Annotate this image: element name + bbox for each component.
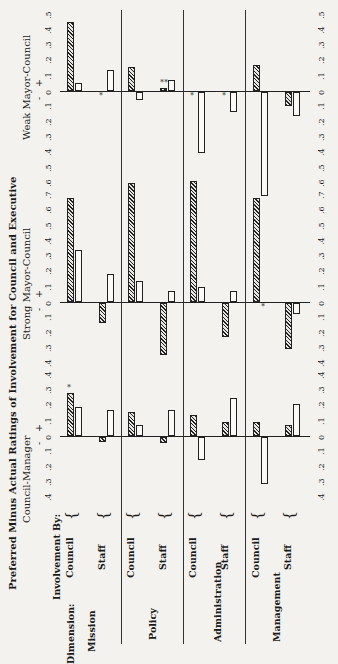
dimension-administration: Administration	[213, 562, 223, 642]
brace-icon: {	[282, 511, 296, 520]
axis-tick-label: .6	[318, 207, 326, 215]
axis-tick-label: .4	[45, 149, 53, 157]
axis-tick-label: .5	[45, 11, 53, 19]
hatched-bar	[128, 412, 135, 436]
open-bar	[168, 291, 175, 302]
brace-icon: {	[250, 511, 264, 520]
axis-tick-label: .2	[45, 402, 53, 410]
axis-tick-label: .2	[45, 329, 53, 337]
involvement-by-label: Involvement By:	[52, 514, 62, 600]
axis-tick-label: .2	[45, 463, 53, 471]
axis-tick-label: .6	[45, 207, 53, 215]
open-bar	[198, 287, 205, 302]
axis-tick-label: .4	[318, 237, 326, 245]
axis-tick-label: .4	[45, 360, 53, 368]
open-bar	[293, 303, 300, 314]
involvement-staff-label: Staff	[283, 545, 293, 570]
axis-tick-label: .7	[318, 191, 326, 199]
open-bar	[198, 437, 205, 460]
separator-admin-management	[245, 10, 246, 644]
axis-tick-label: .4	[318, 149, 326, 157]
plus-sign-wmc: +	[34, 79, 44, 87]
hatched-bar	[99, 437, 106, 442]
axis-tick-label: .7	[45, 191, 53, 199]
axis-tick-label: .1	[318, 314, 326, 322]
hatched-bar	[253, 422, 260, 436]
involvement-council-label: Council	[188, 537, 198, 578]
minus-sign-cm: -	[34, 442, 44, 445]
open-bar	[293, 404, 300, 436]
axis-tick-label: .1	[45, 103, 53, 111]
axis-tick-label: .6	[45, 179, 53, 187]
chart-title: Preferred Minus Actual Ratings of Involv…	[8, 177, 18, 590]
significance-marker: *	[261, 303, 265, 311]
axis-tick-label: .1	[45, 314, 53, 322]
axis-tick-label: .2	[45, 268, 53, 276]
axis-tick-label: .2	[318, 268, 326, 276]
axis-tick-label: .3	[318, 478, 326, 486]
panel-title-council-manager: Council-Manager	[22, 435, 32, 523]
open-bar	[107, 410, 114, 436]
axis-tick-label: .5	[318, 222, 326, 230]
axis-tick-label: .2	[318, 57, 326, 65]
significance-marker: *	[99, 92, 103, 100]
axis-tick-label: .3	[45, 41, 53, 49]
zero-line	[60, 302, 310, 303]
dimension-mission: Mission	[87, 610, 97, 652]
axis-tick-label: .3	[318, 252, 326, 260]
axis-tick-label: 0	[45, 435, 53, 440]
separator-policy-admin	[183, 10, 184, 644]
open-bar	[136, 92, 143, 100]
axis-tick-label: .3	[45, 344, 53, 352]
axis-tick-label: .1	[318, 417, 326, 425]
open-bar	[230, 92, 237, 112]
separator-mission-policy	[121, 10, 122, 644]
axis-tick-label: .6	[318, 179, 326, 187]
axis-tick-label: .2	[318, 463, 326, 471]
brace-icon: {	[187, 511, 201, 520]
open-bar	[136, 425, 143, 436]
hatched-bar	[128, 183, 135, 302]
axis-tick-label: .2	[318, 402, 326, 410]
plus-sign-smc: +	[34, 290, 44, 298]
hatched-bar	[253, 198, 260, 302]
open-bar	[293, 92, 300, 116]
hatched-bar	[128, 67, 135, 91]
axis-tick-label: .1	[45, 283, 53, 291]
hatched-bar	[285, 425, 292, 436]
brace-icon: {	[96, 511, 110, 520]
axis-tick-label: .4	[45, 371, 53, 379]
dimension-label: Dimension:	[66, 603, 76, 664]
hatched-bar	[285, 92, 292, 106]
axis-tick-label: .5	[318, 11, 326, 19]
axis-tick-label: .1	[45, 417, 53, 425]
panel-title-strong-mayor: Strong Mayor-Council	[22, 228, 32, 340]
hatched-bar	[67, 22, 74, 91]
hatched-bar	[222, 303, 229, 337]
axis-tick-label: .2	[45, 57, 53, 65]
panel-title-weak-mayor: Weak Mayor-Council	[22, 35, 32, 140]
axis-tick-label: .3	[45, 478, 53, 486]
open-bar	[75, 250, 82, 302]
hatched-bar	[160, 437, 167, 443]
significance-marker: *	[67, 384, 71, 392]
axis-tick-label: .5	[45, 164, 53, 172]
zero-line	[60, 91, 310, 92]
plus-sign-cm: +	[34, 424, 44, 432]
significance-marker: **	[160, 79, 168, 87]
brace-icon: {	[64, 511, 78, 520]
axis-tick-label: .2	[45, 118, 53, 126]
open-bar	[168, 80, 175, 91]
axis-tick-label: .3	[318, 41, 326, 49]
open-bar	[230, 291, 237, 302]
axis-tick-label: .2	[318, 329, 326, 337]
brace-icon: {	[219, 511, 233, 520]
brace-icon: {	[125, 511, 139, 520]
open-bar	[198, 92, 205, 153]
hatched-bar	[67, 393, 74, 436]
hatched-bar	[190, 415, 197, 436]
axis-tick-label: .1	[318, 283, 326, 291]
axis-tick-label: .1	[45, 448, 53, 456]
hatched-bar	[190, 181, 197, 302]
axis-tick-label: .1	[318, 448, 326, 456]
